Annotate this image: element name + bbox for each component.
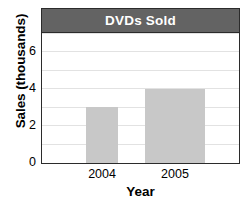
gridline [42, 144, 239, 145]
y-tick-label: 2 [0, 119, 36, 131]
bar-2004 [86, 107, 118, 163]
gridline [42, 33, 239, 34]
gridline [42, 70, 239, 71]
x-axis-tick-labels: 20042005 [41, 167, 240, 183]
x-axis-title: Year [41, 184, 240, 199]
y-tick-label: 0 [0, 156, 36, 168]
gridline [42, 51, 239, 52]
chart-title: DVDs Sold [42, 9, 239, 32]
plot-area [42, 33, 239, 163]
gridline [42, 88, 239, 89]
gridline [42, 107, 239, 108]
x-tick-label: 2004 [72, 167, 132, 181]
y-tick-label: 4 [0, 82, 36, 94]
gridline [42, 125, 239, 126]
y-tick-label: 6 [0, 45, 36, 57]
plot-frame: DVDs Sold [41, 8, 240, 164]
x-tick-label: 2005 [145, 167, 205, 181]
y-axis-tick-labels: 0246 [0, 0, 40, 204]
bar-2005 [145, 89, 205, 163]
chart-title-bar: DVDs Sold [42, 9, 239, 33]
bar-chart: Sales (thousands) 0246 DVDs Sold 2004200… [0, 0, 245, 204]
